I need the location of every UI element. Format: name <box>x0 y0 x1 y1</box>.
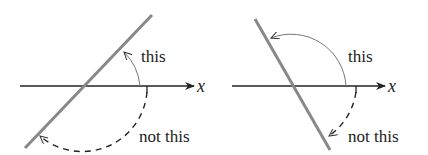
wrong-label: not this <box>348 127 399 146</box>
correct-label: this <box>348 47 373 66</box>
sloped-line <box>255 19 330 150</box>
sloped-line <box>25 15 152 148</box>
x-axis-label: x <box>387 76 396 96</box>
wrong-label: not this <box>139 127 190 146</box>
x-axis-label: x <box>196 76 205 96</box>
correct-label: this <box>141 47 166 66</box>
angle-of-inclination-diagram: x this not this x this not this <box>0 0 428 155</box>
left-panel: x this not this <box>20 15 205 152</box>
correct-angle-arc <box>124 52 140 86</box>
correct-angle-arc <box>271 34 346 86</box>
right-panel: x this not this <box>232 19 399 150</box>
wrong-angle-arc <box>40 92 147 152</box>
